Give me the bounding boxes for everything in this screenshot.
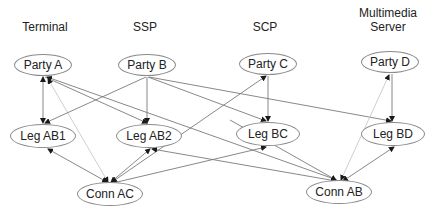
column-label-mms: Multimedia Server <box>348 6 428 34</box>
edge-leg-bd-conn-ab <box>343 147 394 181</box>
column-label-scp: SCP <box>225 20 305 34</box>
column-label-terminal: Terminal <box>5 20 85 34</box>
node-party-a: Party A <box>14 54 72 76</box>
edge-party-b-leg-bc <box>148 77 266 121</box>
column-label-ssp: SSP <box>105 20 185 34</box>
node-label: Leg AB1 <box>20 129 65 143</box>
node-label: Party A <box>24 58 63 72</box>
node-party-b: Party B <box>118 54 176 76</box>
node-label: Conn AC <box>86 187 134 201</box>
edge-leg-ab2-conn-ac <box>111 149 150 182</box>
node-party-d: Party D <box>361 51 419 73</box>
node-leg-ab2: Leg AB2 <box>116 124 182 148</box>
node-conn-ac: Conn AC <box>77 182 143 206</box>
node-label: Party B <box>127 58 166 72</box>
node-conn-ab: Conn AB <box>306 180 372 204</box>
node-label: Party D <box>370 55 410 69</box>
node-leg-ab1: Leg AB1 <box>10 124 76 148</box>
node-label: Leg AB2 <box>126 129 171 143</box>
node-label: Leg BC <box>248 127 288 141</box>
edge-leg-ab2-conn-ab <box>152 149 336 181</box>
node-party-c: Party C <box>239 53 297 75</box>
node-leg-bd: Leg BD <box>361 122 425 146</box>
node-leg-bc: Leg BC <box>236 122 300 146</box>
node-label: Party C <box>248 57 288 71</box>
edge-party-b-leg-bd <box>149 77 391 121</box>
node-label: Leg BD <box>373 127 413 141</box>
node-label: Conn AB <box>315 185 362 199</box>
